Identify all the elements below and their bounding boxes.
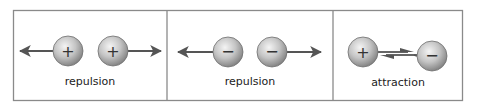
plus-sign: + [356,43,369,62]
panel-label: repulsion [225,75,276,88]
positive-charge-sphere: + [348,37,378,67]
negative-charge-sphere: − [213,37,243,67]
positive-charge-sphere: + [98,36,128,66]
minus-sign: − [425,46,438,65]
negative-charge-sphere: − [257,37,287,67]
charge-interaction-diagram: + + repulsion − − repulsion + [0,0,477,112]
minus-sign: − [265,42,278,61]
negative-charge-sphere: − [417,41,447,71]
positive-charge-sphere: + [53,36,83,66]
panel-label: repulsion [65,75,116,88]
minus-sign: − [221,42,234,61]
plus-sign: + [61,42,74,61]
panel-label: attraction [371,76,425,89]
plus-sign: + [106,42,119,61]
connector [414,55,417,56]
